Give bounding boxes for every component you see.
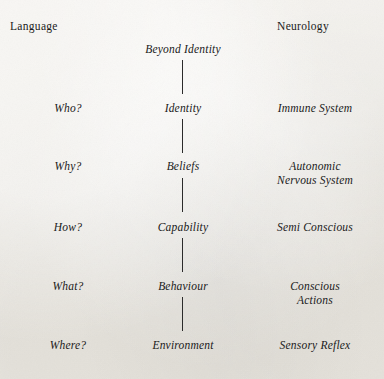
level-item-behaviour: Behaviour bbox=[120, 279, 246, 293]
language-item-2: Why? bbox=[8, 159, 128, 173]
language-item-3: How? bbox=[8, 220, 128, 234]
column-levels: Beyond Identity Identity Beliefs Capabil… bbox=[120, 0, 246, 379]
neurology-item-4: Conscious Actions bbox=[250, 279, 380, 307]
level-item-beliefs: Beliefs bbox=[120, 159, 246, 173]
column-neurology: Immune System Autonomic Nervous System S… bbox=[250, 0, 380, 379]
neurology-item-1: Immune System bbox=[250, 101, 380, 115]
neurology-item-3: Semi Conscious bbox=[250, 220, 380, 234]
column-language: Who? Why? How? What? Where? bbox=[8, 0, 128, 379]
neurology-item-2: Autonomic Nervous System bbox=[250, 159, 380, 187]
language-item-1: Who? bbox=[8, 101, 128, 115]
language-item-5: Where? bbox=[8, 338, 128, 352]
neurology-item-5: Sensory Reflex bbox=[250, 338, 380, 352]
diagram-canvas: Language Neurology Who? Why? How? What? … bbox=[0, 0, 384, 379]
level-item-environment: Environment bbox=[120, 338, 246, 352]
level-item-capability: Capability bbox=[120, 220, 246, 234]
language-item-4: What? bbox=[8, 279, 128, 293]
level-item-beyond-identity: Beyond Identity bbox=[120, 42, 246, 56]
level-item-identity: Identity bbox=[120, 101, 246, 115]
